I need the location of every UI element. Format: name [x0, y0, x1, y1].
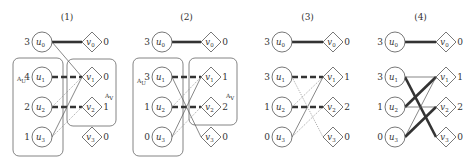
weight-v3: 0 — [103, 132, 109, 142]
weight-u2: 2 — [24, 102, 30, 112]
edge-u3-v2-thick — [405, 107, 436, 137]
weight-v3: 0 — [457, 132, 463, 142]
weight-u0: 3 — [264, 37, 270, 47]
panels-group: (1)AUAVu03u14u22u31v00v10v21v30(2)AUAVu0… — [13, 12, 463, 156]
weight-v2: 2 — [344, 102, 350, 112]
weight-v3: 0 — [222, 132, 228, 142]
weight-v0: 0 — [103, 37, 109, 47]
weight-u1: 4 — [24, 72, 30, 82]
weight-v0: 0 — [222, 37, 228, 47]
weight-v1: 1 — [344, 72, 350, 82]
group-box-label: AV — [104, 92, 114, 101]
weight-u2: 1 — [144, 102, 150, 112]
weight-u0: 3 — [24, 37, 30, 47]
weight-u0: 3 — [144, 37, 150, 47]
weight-u1: 3 — [377, 72, 383, 82]
weight-u3: 1 — [24, 132, 30, 142]
edge-u2-v1-dotted — [172, 77, 201, 107]
panel-title: (3) — [301, 12, 314, 22]
weight-u3: 0 — [377, 132, 383, 142]
weight-v1: 1 — [222, 72, 228, 82]
weight-u1: 3 — [144, 72, 150, 82]
weight-v1: 0 — [103, 72, 109, 82]
weight-v2: 2 — [457, 102, 463, 112]
panel-4: (4)u03u13u21u30v00v11v22v30 — [377, 12, 463, 147]
panel-title: (4) — [414, 12, 427, 22]
edge-u2-v1-thick — [405, 77, 436, 107]
panel-3: (3)u03u13u21u30v00v11v22v30 — [264, 12, 350, 147]
weight-u1: 3 — [264, 72, 270, 82]
edge-u2-v1-dotted — [292, 77, 323, 107]
weight-v1: 1 — [457, 72, 463, 82]
bipartite-matching-diagram: (1)AUAVu03u14u22u31v00v10v21v30(2)AUAVu0… — [0, 0, 471, 162]
weight-v0: 0 — [344, 37, 350, 47]
panel-2: (2)AUAVu03u13u21u30v00v11v22v30 — [133, 12, 237, 156]
weight-v2: 2 — [222, 102, 228, 112]
weight-u3: 0 — [264, 132, 270, 142]
weight-v0: 0 — [457, 37, 463, 47]
panel-1: (1)AUAVu03u14u22u31v00v10v21v30 — [13, 12, 116, 156]
weight-u0: 3 — [377, 37, 383, 47]
weight-v2: 1 — [103, 102, 109, 112]
weight-u2: 1 — [264, 102, 270, 112]
edge-u3-v2-dotted — [292, 107, 323, 137]
weight-u2: 1 — [377, 102, 383, 112]
panel-title: (1) — [61, 12, 74, 22]
weight-v3: 0 — [344, 132, 350, 142]
weight-u3: 0 — [144, 132, 150, 142]
edge-u3-v2-dotted — [172, 107, 201, 137]
group-box-label: AV — [225, 92, 235, 101]
panel-title: (2) — [180, 12, 193, 22]
